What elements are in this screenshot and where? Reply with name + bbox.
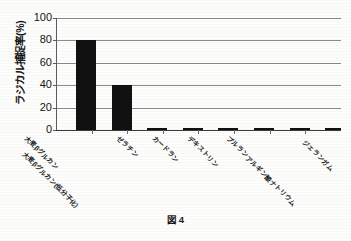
y-tick-mark-20 xyxy=(53,108,56,109)
bar-6 xyxy=(290,128,310,130)
bar-chart: ラジカル捕捉率(%) 0 20 40 60 80 100 xyxy=(0,0,351,205)
gridline-100 xyxy=(56,18,341,19)
bar-2 xyxy=(147,128,167,130)
plot-area xyxy=(56,18,341,130)
caption-prefix: 図 xyxy=(167,214,177,225)
x-label-dextrin: デキストリン xyxy=(186,133,222,169)
caption-number: 4 xyxy=(179,214,184,225)
y-tick-label-20: 20 xyxy=(26,102,52,113)
y-axis-tick-labels: 0 20 40 60 80 100 xyxy=(22,18,52,130)
bar-5 xyxy=(254,128,274,130)
x-label-curdlan: カードラン xyxy=(151,133,182,164)
y-tick-mark-40 xyxy=(53,85,56,86)
bar-7 xyxy=(325,128,341,130)
x-label-sodium-alginate: アルギン酸ナトリウム xyxy=(244,153,299,208)
bar-4 xyxy=(218,128,238,130)
y-axis-line xyxy=(56,18,57,130)
figure-caption: 図4 xyxy=(0,212,351,226)
y-tick-label-80: 80 xyxy=(26,34,52,45)
x-label-gelatin: ゼラチン xyxy=(115,133,141,159)
gridline-40 xyxy=(56,85,341,86)
y-tick-mark-100 xyxy=(53,18,56,19)
plot-background xyxy=(56,18,341,130)
x-axis-category-labels: 大麦βグルカン 大麦βグルカン(低分子化) ゼラチン カードラン デキストリン … xyxy=(56,131,346,205)
bar-3 xyxy=(183,128,203,130)
y-tick-mark-60 xyxy=(53,63,56,64)
y-tick-label-40: 40 xyxy=(26,79,52,90)
bar-1 xyxy=(112,85,132,130)
y-tick-label-60: 60 xyxy=(26,57,52,68)
x-label-gellan-gum: ジェランガム xyxy=(301,137,337,173)
gridline-60 xyxy=(56,63,341,64)
y-tick-mark-80 xyxy=(53,40,56,41)
bar-0 xyxy=(76,40,96,130)
y-tick-label-100: 100 xyxy=(26,12,52,23)
figure-container: ラジカル捕捉率(%) 0 20 40 60 80 100 xyxy=(0,0,351,241)
gridline-80 xyxy=(56,40,341,41)
gridline-20 xyxy=(56,108,341,109)
